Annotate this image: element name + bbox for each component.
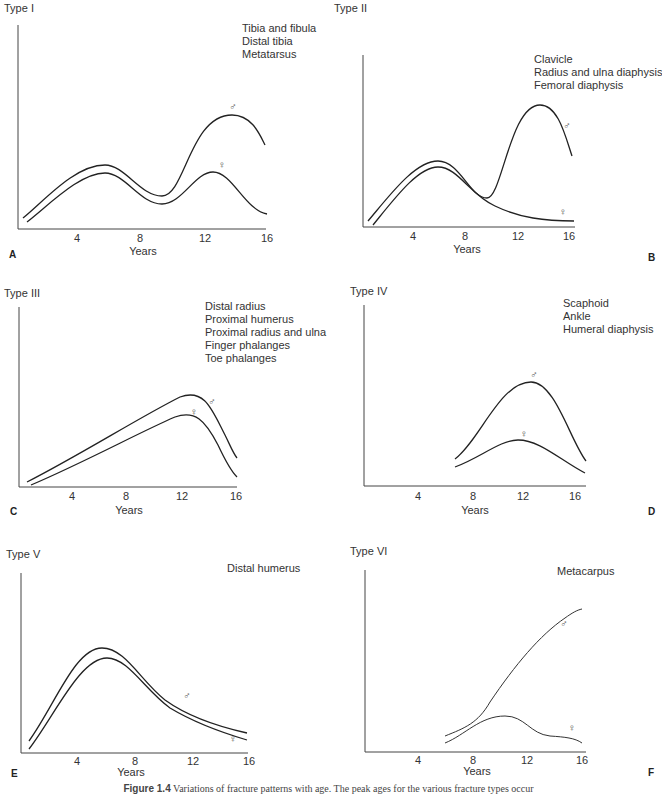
x-tick: 8 (462, 230, 468, 242)
x-tick: 12 (176, 490, 188, 502)
caption-text: Variations of fracture patterns with age… (173, 783, 534, 794)
female-symbol: ♀ (218, 159, 226, 170)
plot-area (330, 540, 657, 780)
x-tick: 12 (521, 754, 533, 766)
female-curve (31, 415, 237, 485)
panel-letter: A (9, 249, 16, 260)
x-tick: 12 (199, 232, 211, 244)
x-tick: 4 (410, 230, 416, 242)
female-symbol: ♀ (568, 722, 576, 733)
x-tick: 16 (230, 490, 242, 502)
female-curve (373, 167, 574, 225)
male-symbol: ♂ (563, 120, 571, 131)
female-symbol: ♀ (520, 428, 528, 439)
x-tick: 8 (137, 232, 143, 244)
x-tick: 16 (563, 230, 575, 242)
panel-c: Type III Distal radius Proximal humerus … (0, 270, 330, 540)
female-symbol: ♀ (229, 733, 237, 744)
x-tick: 16 (576, 754, 588, 766)
x-axis-label: Years (461, 504, 489, 516)
male-symbol: ♂ (530, 369, 538, 380)
panel-letter: B (648, 252, 655, 263)
x-tick: 16 (569, 490, 581, 502)
panel-b: Type II Clavicle Radius and ulna diaphys… (330, 0, 657, 270)
plot-area (330, 0, 657, 270)
male-curve (27, 395, 237, 482)
female-symbol: ♀ (559, 206, 567, 217)
x-tick: 4 (74, 232, 80, 244)
x-tick: 4 (415, 490, 421, 502)
panel-letter: F (648, 767, 654, 778)
plot-area (0, 0, 330, 270)
female-curve (455, 440, 585, 473)
panel-letter: E (11, 768, 18, 779)
male-curve (455, 382, 586, 461)
x-tick: 12 (187, 755, 199, 767)
x-tick: 12 (517, 490, 529, 502)
x-tick: 4 (69, 490, 75, 502)
plot-area (0, 540, 330, 780)
x-tick: 16 (261, 232, 273, 244)
male-symbol: ♂ (208, 396, 216, 407)
panel-f: Type VI Metacarpus ♂ ♀ 4 8 12 16 Years F (330, 540, 657, 780)
female-curve (445, 716, 582, 743)
panel-d: Type IV Scaphoid Ankle Humeral diaphysis… (330, 270, 657, 540)
x-tick: 16 (243, 755, 255, 767)
female-symbol: ♀ (190, 406, 198, 417)
panel-e: Type V Distal humerus ♂ ♀ 4 8 12 16 Year… (0, 540, 330, 780)
x-axis-label: Years (115, 504, 143, 516)
male-curve (29, 648, 247, 741)
male-curve (368, 105, 572, 221)
x-axis-label: Years (463, 765, 491, 777)
x-tick: 4 (74, 755, 80, 767)
caption-label: Figure 1.4 (123, 783, 170, 794)
x-tick: 4 (415, 754, 421, 766)
male-symbol: ♂ (183, 690, 191, 701)
x-tick: 12 (512, 230, 524, 242)
panel-a: Type I Tibia and fibula Distal tibia Met… (0, 0, 330, 270)
figure-caption: Figure 1.4 Variations of fracture patter… (0, 783, 657, 794)
x-axis-label: Years (117, 766, 145, 778)
x-tick: 8 (123, 490, 129, 502)
male-symbol: ♂ (229, 101, 237, 112)
female-curve (27, 172, 267, 222)
plot-area (0, 270, 330, 540)
panel-letter: C (10, 506, 17, 517)
x-axis-label: Years (453, 243, 481, 255)
plot-area (330, 270, 657, 540)
panel-letter: D (648, 506, 655, 517)
male-curve (23, 115, 265, 218)
male-symbol: ♂ (560, 618, 568, 629)
x-tick: 8 (470, 490, 476, 502)
x-axis-label: Years (129, 245, 157, 257)
